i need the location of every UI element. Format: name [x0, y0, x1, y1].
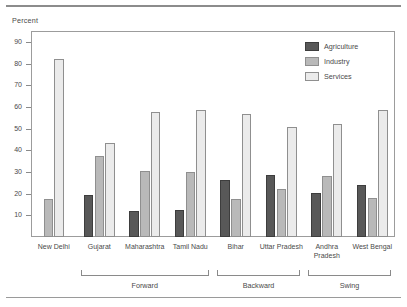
legend-label-industry: Industry [324, 57, 350, 66]
group-bracket [308, 270, 391, 276]
y-axis-tick [26, 85, 31, 86]
y-axis-tick-label: 50 [8, 125, 22, 132]
y-axis-tick [26, 107, 31, 108]
legend-item-industry[interactable]: Industry [305, 55, 358, 68]
y-axis-tick-label: 80 [8, 60, 22, 67]
bar-agriculture [357, 185, 367, 237]
chart-figure: Percent 102030405060708090 New DelhiGuja… [0, 0, 407, 307]
y-axis-tick [26, 42, 31, 43]
y-axis-tick-label: 40 [8, 146, 22, 153]
bar-industry [44, 199, 54, 237]
bottom-divider-rule [6, 297, 401, 298]
bar-industry [277, 189, 287, 237]
y-axis-tick [26, 129, 31, 130]
top-divider-rule [6, 5, 401, 7]
bar-agriculture [175, 210, 185, 237]
y-axis-tick-label: 90 [8, 38, 22, 45]
bar-services [287, 127, 297, 237]
group-bracket [217, 270, 300, 276]
group-bracket [81, 270, 210, 276]
group-bracket-label: Forward [81, 281, 210, 290]
legend-swatch-industry-icon [305, 57, 319, 66]
x-axis-label: Andhra Pradesh [304, 243, 350, 260]
y-axis-tick-label: 30 [8, 168, 22, 175]
legend-label-agriculture: Agriculture [324, 42, 358, 51]
x-axis-label: Tamil Nadu [168, 243, 214, 252]
bar-services [151, 112, 161, 237]
bar-industry [140, 171, 150, 237]
y-axis-tick-label: 20 [8, 190, 22, 197]
bar-agriculture [220, 180, 230, 237]
legend-label-services: Services [324, 72, 352, 81]
x-axis-label: Gujarat [77, 243, 123, 252]
y-axis-title: Percent [12, 16, 38, 25]
y-axis-tick [26, 215, 31, 216]
legend-swatch-agriculture-icon [305, 42, 319, 51]
x-axis-label: New Delhi [31, 243, 77, 252]
bar-industry [231, 199, 241, 237]
bar-services [196, 110, 206, 237]
y-axis-tick-label: 10 [8, 211, 22, 218]
y-axis-tick-label: 60 [8, 103, 22, 110]
group-bracket-label: Swing [308, 281, 391, 290]
y-axis-tick [26, 194, 31, 195]
chart-legend: Agriculture Industry Services [305, 40, 358, 85]
y-axis-tick [26, 150, 31, 151]
legend-item-services[interactable]: Services [305, 70, 358, 83]
y-axis-tick [26, 64, 31, 65]
x-axis-label: Bihar [213, 243, 259, 252]
bar-agriculture [311, 193, 321, 237]
x-axis-label: West Bengal [350, 243, 396, 252]
y-axis-tick [26, 172, 31, 173]
x-axis-label: Uttar Pradesh [259, 243, 305, 252]
bar-agriculture [129, 211, 139, 237]
bar-industry [368, 198, 378, 237]
bar-services [54, 59, 64, 237]
legend-swatch-services-icon [305, 72, 319, 81]
bar-services [333, 124, 343, 237]
bar-industry [322, 176, 332, 237]
bar-services [105, 143, 115, 237]
group-bracket-label: Backward [217, 281, 300, 290]
bar-industry [95, 156, 105, 237]
bar-services [242, 114, 252, 237]
bar-agriculture [266, 175, 276, 237]
bar-services [378, 110, 388, 237]
x-axis-label: Maharashtra [122, 243, 168, 252]
bar-agriculture [84, 195, 94, 237]
bar-industry [186, 172, 196, 237]
y-axis-tick-label: 70 [8, 81, 22, 88]
legend-item-agriculture[interactable]: Agriculture [305, 40, 358, 53]
